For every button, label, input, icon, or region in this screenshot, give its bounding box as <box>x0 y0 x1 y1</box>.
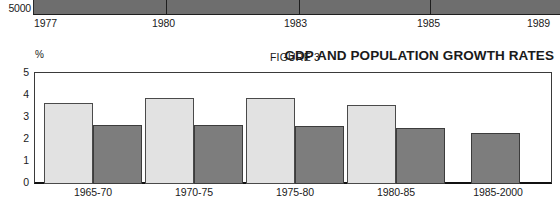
bar-gdp-1980-85 <box>347 105 396 184</box>
x-label-1965-70: 1965-70 <box>58 185 128 200</box>
bar-population-1985-2000 <box>471 133 520 184</box>
previous-figure-x-tick-4: 1989 <box>527 16 550 30</box>
previous-figure-y-label: 5000 <box>0 3 31 14</box>
previous-figure-tick <box>299 0 300 15</box>
bar-gdp-1965-70 <box>44 103 93 184</box>
bar-population-1970-75 <box>194 125 243 184</box>
figure-3-chart: FIGURE 3 GDP AND POPULATION GROWTH RATES… <box>0 46 560 203</box>
bar-population-1980-85 <box>396 128 445 184</box>
previous-figure-tick <box>430 0 431 15</box>
x-axis-labels: 1965-70 1970-75 1975-80 1980-85 1985-200… <box>0 185 560 203</box>
previous-figure-x-tick-3: 1985 <box>417 16 440 30</box>
previous-figure-bar-band <box>33 0 560 15</box>
bar-population-1965-70 <box>93 125 142 184</box>
bar-gdp-1970-75 <box>145 98 194 184</box>
x-label-1985-2000: 1985-2000 <box>459 185 537 200</box>
x-label-1970-75: 1970-75 <box>159 185 229 200</box>
x-label-1980-85: 1980-85 <box>361 185 431 200</box>
previous-figure-remnant: 5000 1977 1980 1983 1985 1989 <box>0 0 560 34</box>
previous-figure-x-tick-0: 1977 <box>34 16 57 30</box>
previous-figure-x-axis-labels: 1977 1980 1983 1985 1989 <box>0 16 560 32</box>
bars-layer <box>0 46 560 203</box>
previous-figure-x-tick-1: 1980 <box>152 16 175 30</box>
previous-figure-x-tick-2: 1983 <box>284 16 307 30</box>
x-label-1975-80: 1975-80 <box>260 185 330 200</box>
bar-gdp-1975-80 <box>246 98 295 184</box>
bar-population-1975-80 <box>295 126 344 184</box>
previous-figure-tick <box>166 0 167 15</box>
